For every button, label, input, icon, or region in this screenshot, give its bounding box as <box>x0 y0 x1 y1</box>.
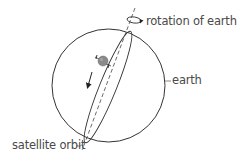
earth-circle <box>52 29 165 142</box>
rotation-of-earth-label: rotation of earth <box>146 16 237 28</box>
orbit-direction-arrow-icon <box>88 72 92 86</box>
satellite-icon <box>95 55 111 68</box>
diagram-canvas: rotation of earth earth satellite orbit <box>0 0 238 161</box>
rotation-ellipse <box>127 16 142 24</box>
earth-label: earth <box>172 75 202 87</box>
satellite-orbit-ellipse <box>78 28 139 146</box>
satellite-orbit-label: satellite orbit <box>12 140 85 152</box>
rotation-arrow-icon <box>140 19 144 24</box>
